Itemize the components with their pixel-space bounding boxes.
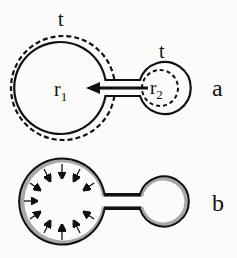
bubble-diagram: t t r1 r2 a — [0, 0, 237, 258]
panel-a-label: a — [212, 75, 223, 101]
panel-b: b — [19, 159, 224, 245]
bubble-pair-interior-b — [24, 163, 184, 241]
thickness-label-small: t — [159, 40, 165, 62]
panel-a: t t r1 r2 a — [11, 8, 223, 140]
panel-b-label: b — [212, 190, 224, 216]
thickness-label-big: t — [58, 8, 64, 30]
